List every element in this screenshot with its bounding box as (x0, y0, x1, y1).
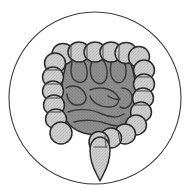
intestine-icon-svg (0, 0, 190, 196)
intestine-icon-container: Intestines Icon (0, 0, 190, 196)
ascending-colon (43, 53, 67, 129)
cecum (50, 122, 72, 144)
